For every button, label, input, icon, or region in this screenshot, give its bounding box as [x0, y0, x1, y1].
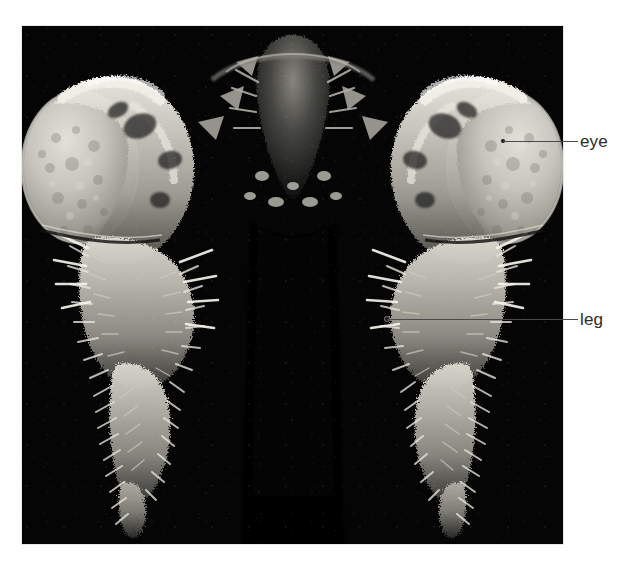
annotation-label-leg: leg: [580, 311, 603, 328]
specimen-rendering: [22, 26, 563, 544]
leg-leader-line: [387, 319, 578, 320]
figure-root: eye leg: [0, 0, 638, 571]
annotation-label-eye: eye: [580, 133, 608, 150]
eye-leader-line: [503, 141, 578, 142]
micrograph-plate: [22, 26, 563, 544]
